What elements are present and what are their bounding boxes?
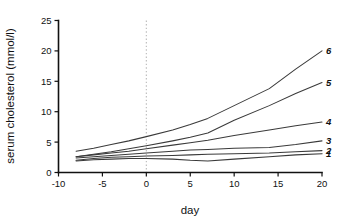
chart-container: 0510152025 -10-505101520 123456 day seru… (0, 0, 342, 221)
x-tick-label: 5 (188, 178, 193, 189)
series-line-6 (76, 51, 322, 151)
series-label-3: 3 (326, 135, 332, 146)
y-tick-label: 0 (46, 167, 51, 178)
y-tick-label: 10 (41, 106, 52, 117)
x-tick-label: -10 (52, 178, 66, 189)
data-series-layer (76, 51, 322, 161)
x-tick-label: 10 (229, 178, 240, 189)
x-axis: -10-505101520 (52, 173, 328, 189)
x-tick-label: 0 (144, 178, 149, 189)
x-tick-label: 15 (273, 178, 284, 189)
series-label-4: 4 (325, 116, 332, 127)
series-label-2: 2 (325, 145, 332, 156)
y-axis: 0510152025 (41, 15, 59, 178)
y-axis-ticks: 0510152025 (41, 15, 59, 178)
y-tick-label: 25 (41, 15, 52, 26)
x-axis-title: day (181, 204, 200, 216)
series-label-5: 5 (326, 77, 332, 88)
y-tick-label: 15 (41, 76, 52, 87)
x-tick-label: -5 (98, 178, 106, 189)
x-axis-ticks: -10-505101520 (52, 173, 328, 189)
y-tick-label: 5 (46, 137, 51, 148)
series-end-labels: 123456 (325, 45, 332, 159)
y-axis-title: serum cholesterol (mmol/l) (4, 28, 16, 164)
y-tick-label: 20 (41, 45, 52, 56)
serum-cholesterol-line-chart: 0510152025 -10-505101520 123456 day seru… (0, 0, 342, 221)
series-label-6: 6 (326, 45, 332, 56)
x-tick-label: 20 (317, 178, 328, 189)
